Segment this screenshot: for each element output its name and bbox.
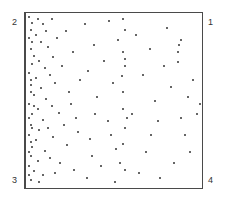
data-point	[68, 91, 70, 93]
data-point	[28, 72, 30, 74]
data-point	[77, 131, 79, 133]
data-point	[189, 151, 191, 153]
data-point	[121, 75, 123, 77]
data-point	[122, 91, 124, 93]
data-point	[122, 108, 124, 110]
data-point	[58, 112, 60, 114]
data-point	[45, 30, 47, 32]
data-point	[126, 117, 128, 119]
data-point	[177, 51, 179, 53]
data-point	[35, 34, 37, 36]
data-point	[93, 44, 95, 46]
data-point	[30, 179, 32, 181]
data-point	[145, 151, 147, 153]
data-point	[28, 151, 30, 153]
corner-label-top-right: 1	[208, 17, 213, 27]
data-point	[124, 127, 126, 129]
data-point	[38, 129, 40, 131]
data-point	[196, 113, 198, 115]
data-point	[112, 82, 114, 84]
data-point	[65, 30, 67, 32]
data-point	[150, 134, 152, 136]
data-point	[51, 18, 53, 20]
data-point	[159, 177, 161, 179]
data-point	[107, 120, 109, 122]
data-point	[178, 44, 180, 46]
data-point	[131, 113, 133, 115]
data-point	[100, 165, 102, 167]
data-point	[73, 169, 75, 171]
data-point	[35, 139, 37, 141]
corner-label-bottom-right: 4	[208, 175, 213, 185]
data-point	[177, 61, 179, 63]
data-point	[37, 108, 39, 110]
data-point	[28, 103, 30, 105]
data-point	[44, 67, 46, 69]
data-point	[31, 113, 33, 115]
data-point	[86, 177, 88, 179]
data-point	[49, 74, 51, 76]
data-point	[180, 117, 182, 119]
data-point	[54, 172, 56, 174]
data-point	[89, 138, 91, 140]
data-point	[108, 20, 110, 22]
data-point	[72, 51, 74, 53]
data-point	[75, 117, 77, 119]
data-point	[49, 157, 51, 159]
data-point	[142, 74, 144, 76]
data-point	[37, 18, 39, 20]
data-point	[56, 37, 58, 39]
data-point	[66, 144, 68, 146]
data-point	[54, 82, 56, 84]
corner-label-bottom-left: 3	[12, 175, 17, 185]
data-point	[52, 136, 54, 138]
data-point	[124, 65, 126, 67]
data-point	[30, 141, 32, 143]
data-point	[87, 70, 89, 72]
data-point	[28, 174, 30, 176]
data-point	[33, 55, 35, 57]
data-point	[31, 127, 33, 129]
data-point	[96, 96, 98, 98]
data-point	[187, 96, 189, 98]
data-point	[149, 48, 151, 50]
data-point	[30, 84, 32, 86]
data-point	[35, 77, 37, 79]
data-point	[30, 155, 32, 157]
data-point	[94, 113, 96, 115]
data-point	[42, 23, 44, 25]
data-point	[30, 124, 32, 126]
data-point	[51, 105, 53, 107]
data-point	[47, 46, 49, 48]
data-point	[163, 65, 165, 67]
data-point	[30, 48, 32, 50]
data-point	[37, 160, 39, 162]
data-point	[38, 181, 40, 183]
data-point	[180, 39, 182, 41]
data-point	[30, 79, 32, 81]
data-point	[28, 165, 30, 167]
data-point	[38, 60, 40, 62]
data-point	[119, 162, 121, 164]
data-point	[47, 127, 49, 129]
data-point	[28, 117, 30, 119]
data-point	[122, 18, 124, 20]
data-point	[42, 174, 44, 176]
data-point	[114, 181, 116, 183]
data-point	[52, 56, 54, 58]
data-point	[117, 39, 119, 41]
corner-label-top-left: 2	[12, 17, 17, 27]
data-point	[28, 16, 30, 18]
data-point	[138, 172, 140, 174]
data-point	[28, 37, 30, 39]
data-point	[166, 27, 168, 29]
data-point	[61, 65, 63, 67]
data-point	[157, 120, 159, 122]
data-point	[173, 162, 175, 164]
data-point	[31, 63, 33, 65]
data-point	[33, 94, 35, 96]
data-point	[110, 134, 112, 136]
data-point	[31, 22, 33, 24]
data-point	[122, 143, 124, 145]
data-point	[84, 23, 86, 25]
